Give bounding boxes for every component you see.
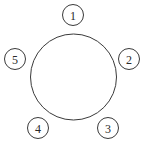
seat-4: 4 [28, 118, 49, 139]
seat-2: 2 [119, 49, 140, 70]
seat-5: 5 [5, 49, 26, 70]
seat-label: 5 [12, 53, 18, 67]
seat-label: 1 [70, 9, 76, 23]
seat-3: 3 [98, 118, 119, 139]
seating-diagram: 1 2 3 4 5 [0, 0, 146, 146]
seat-label: 3 [105, 122, 111, 136]
round-table [31, 34, 117, 120]
seat-1: 1 [63, 5, 84, 26]
seat-label: 2 [126, 53, 132, 67]
seat-label: 4 [35, 122, 41, 136]
